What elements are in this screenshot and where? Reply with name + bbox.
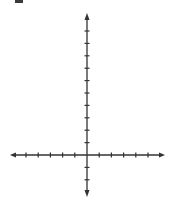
x-axis-right-arrow-icon — [159, 153, 165, 158]
coordinate-plane — [0, 0, 171, 211]
x-axis-left-arrow-icon — [10, 153, 16, 158]
y-axis-down-arrow-icon — [85, 190, 90, 197]
y-axis-up-arrow-icon — [85, 13, 90, 20]
